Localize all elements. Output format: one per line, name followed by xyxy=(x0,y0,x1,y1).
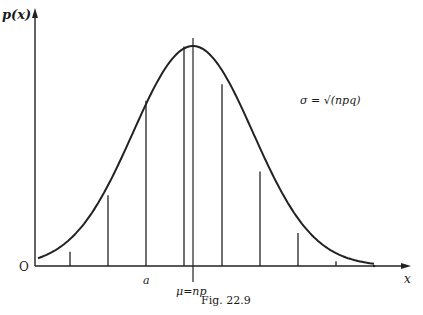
axis-dot xyxy=(373,265,375,267)
sigma-annotation: σ = √(npq) xyxy=(300,94,360,107)
ordinate-lines xyxy=(70,47,336,266)
y-axis-arrow-icon xyxy=(32,8,38,18)
mark-a-label: a xyxy=(143,274,150,287)
x-axis-arrow-icon xyxy=(401,263,411,269)
x-axis-label: x xyxy=(404,272,411,286)
normal-curve xyxy=(38,46,374,264)
normal-curve-figure: p(x) O x a μ=np σ = √(npq) Fig. 22.9 xyxy=(0,0,423,315)
y-axis-label: p(x) xyxy=(2,7,31,22)
figure-caption: Fig. 22.9 xyxy=(201,294,251,307)
origin-label: O xyxy=(19,260,29,274)
